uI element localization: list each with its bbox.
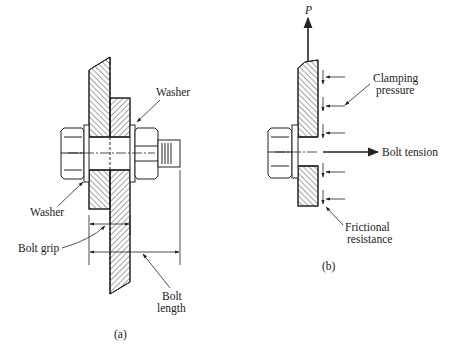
caption-a: (a) xyxy=(114,328,127,341)
label-frictional-2: resistance xyxy=(347,233,392,245)
label-frictional-1: Frictional xyxy=(345,221,390,233)
bolt-thread xyxy=(158,140,180,167)
label-bolt-grip: Bolt grip xyxy=(18,242,59,255)
left-plate xyxy=(89,57,110,209)
bolt-head xyxy=(61,128,84,179)
right-plate xyxy=(110,98,130,294)
label-force-p: P xyxy=(304,4,312,16)
label-bolt-length-2: length xyxy=(157,302,186,315)
plate xyxy=(298,60,318,206)
washer-left xyxy=(84,125,89,182)
caption-b: (b) xyxy=(322,260,336,273)
label-washer-top: Washer xyxy=(156,86,190,98)
bolt-head-b xyxy=(268,128,292,178)
label-bolt-length-1: Bolt xyxy=(162,290,183,302)
bolted-joint-diagram: Washer Washer Bolt grip Bolt length (a) xyxy=(0,0,456,355)
washer-right xyxy=(130,125,135,182)
figure-b xyxy=(268,18,378,225)
label-bolt-tension: Bolt tension xyxy=(382,146,438,158)
label-clamping-2: pressure xyxy=(376,84,414,97)
label-washer-left: Washer xyxy=(30,206,64,218)
clamping-arrows xyxy=(326,77,345,199)
washer-b xyxy=(292,125,298,178)
nut xyxy=(135,128,158,179)
